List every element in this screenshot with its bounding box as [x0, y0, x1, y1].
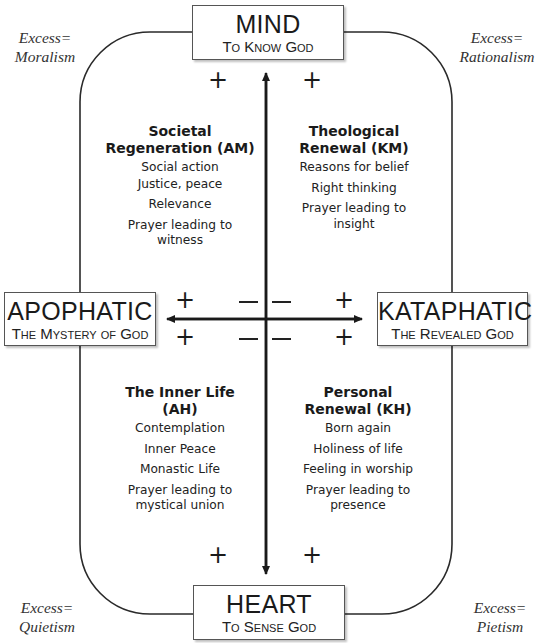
quadrant-personal-renewal: Personal Renewal (KH) Born again Holines…	[273, 384, 443, 519]
excess-bottom-left: Excess= Quietism	[12, 598, 82, 636]
list-item: Born again	[273, 421, 443, 437]
pole-mind: MIND To Know God	[192, 5, 344, 60]
list-item: Contemplation	[95, 421, 265, 437]
plus-icon: +	[332, 288, 356, 312]
pole-apophatic: APOPHATIC The Mystery of God	[4, 292, 156, 346]
list-item: Relevance	[95, 197, 265, 213]
plus-icon: +	[332, 325, 356, 349]
list-item: insight	[269, 217, 439, 233]
list-item: Feeling in worship	[273, 462, 443, 478]
list-item: Reasons for belief	[269, 160, 439, 176]
excess-top-right: Excess= Rationalism	[455, 28, 539, 66]
list-item: mystical union	[95, 498, 265, 514]
pole-kataphatic: KATAPHATIC The Revealed God	[377, 292, 528, 346]
quadrant-title: Renewal (KM)	[269, 140, 439, 157]
quadrant-title: Societal	[95, 123, 265, 140]
quadrant-inner-life: The Inner Life (AH) Contemplation Inner …	[95, 384, 265, 519]
minus-icon	[272, 301, 291, 303]
pole-heart: HEART To Sense God	[193, 585, 345, 640]
pole-apophatic-subtitle: The Mystery of God	[5, 325, 155, 343]
list-item: Inner Peace	[95, 442, 265, 458]
plus-icon: +	[173, 325, 197, 349]
quadrant-societal-regeneration: Societal Regeneration (AM) Social action…	[95, 123, 265, 254]
list-item: Prayer leading to	[95, 218, 265, 234]
minus-icon	[239, 338, 258, 340]
quadrant-title: Personal	[273, 384, 443, 401]
list-item: Social action	[95, 160, 265, 176]
excess-bottom-right: Excess= Pietism	[465, 598, 535, 636]
plus-icon: +	[206, 543, 230, 567]
quadrant-title: Regeneration (AM)	[95, 140, 265, 157]
pole-mind-title: MIND	[193, 10, 343, 38]
list-item: Monastic Life	[95, 462, 265, 478]
quadrant-theological-renewal: Theological Renewal (KM) Reasons for bel…	[269, 123, 439, 237]
list-item: witness	[95, 233, 265, 249]
pole-kataphatic-title: KATAPHATIC	[378, 297, 527, 325]
pole-mind-subtitle: To Know God	[193, 38, 343, 56]
quadrant-title: The Inner Life	[95, 384, 265, 401]
list-item: Prayer leading to	[269, 201, 439, 217]
pole-apophatic-title: APOPHATIC	[5, 297, 155, 325]
quadrant-title: Renewal (KH)	[273, 401, 443, 418]
list-item: Prayer leading to	[273, 483, 443, 499]
excess-top-left: Excess= Moralism	[10, 28, 80, 66]
minus-icon	[239, 301, 258, 303]
plus-icon: +	[300, 68, 324, 92]
pole-kataphatic-subtitle: The Revealed God	[378, 325, 527, 343]
list-item: Prayer leading to	[95, 483, 265, 499]
list-item: Holiness of life	[273, 442, 443, 458]
quadrant-title: (AH)	[95, 401, 265, 418]
list-item: Right thinking	[269, 181, 439, 197]
pole-heart-subtitle: To Sense God	[194, 618, 344, 636]
minus-icon	[272, 338, 291, 340]
quadrant-title: Theological	[269, 123, 439, 140]
plus-icon: +	[300, 543, 324, 567]
list-item: presence	[273, 498, 443, 514]
pole-heart-title: HEART	[194, 590, 344, 618]
plus-icon: +	[206, 68, 230, 92]
plus-icon: +	[173, 288, 197, 312]
list-item: Justice, peace	[95, 177, 265, 193]
